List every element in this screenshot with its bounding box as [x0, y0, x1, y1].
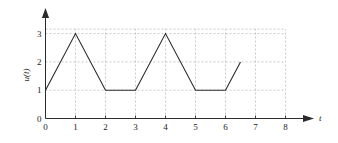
x-tick-label: 7 — [253, 123, 258, 132]
y-tick-label: 0 — [37, 114, 42, 123]
y-axis-title: u(t) — [21, 68, 31, 81]
x-tick-label: 4 — [163, 123, 168, 132]
vertical-gridlines — [46, 29, 286, 118]
x-axis-arrow-icon — [303, 115, 314, 122]
y-tick-label: 2 — [37, 57, 42, 66]
x-tick-label: 5 — [193, 123, 198, 132]
x-tick-label: 8 — [283, 123, 288, 132]
x-tick-label: 1 — [73, 123, 78, 132]
x-tick-label: 0 — [43, 123, 48, 132]
x-axis-title: t — [319, 113, 322, 123]
y-tick-label: 3 — [37, 29, 42, 38]
x-tick-label: 6 — [223, 123, 228, 132]
x-tick-label: 2 — [103, 123, 108, 132]
y-axis-arrow-icon — [42, 8, 49, 18]
x-tick-label: 3 — [133, 123, 138, 132]
y-tick-label: 1 — [37, 86, 42, 95]
chart-figure: 012345678 0123 u(t) t — [0, 0, 338, 143]
